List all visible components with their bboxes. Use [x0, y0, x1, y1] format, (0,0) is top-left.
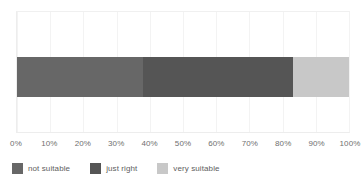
- legend-item[interactable]: very suitable: [157, 163, 219, 174]
- plot-area: [16, 11, 350, 133]
- x-tick-label: 50%: [175, 139, 191, 149]
- legend-item[interactable]: just right: [90, 163, 137, 174]
- x-tick-label: 100%: [340, 139, 361, 149]
- legend-item-label: not suitable: [28, 163, 70, 174]
- legend-swatch-icon: [90, 163, 101, 174]
- chart-legend: not suitablejust rightvery suitable: [12, 163, 240, 174]
- x-tick-label: 90%: [308, 139, 324, 149]
- legend-item[interactable]: not suitable: [12, 163, 70, 174]
- x-tick-label: 20%: [75, 139, 91, 149]
- x-tick-label: 80%: [275, 139, 291, 149]
- legend-item-label: very suitable: [173, 163, 219, 174]
- legend-swatch-icon: [157, 163, 168, 174]
- x-tick-label: 30%: [108, 139, 124, 149]
- bar-segment-not-suitable[interactable]: [17, 57, 143, 97]
- bar-segment-very-suitable[interactable]: [293, 57, 349, 97]
- x-tick-label: 10%: [41, 139, 57, 149]
- bar-segment-just-right[interactable]: [143, 57, 292, 97]
- x-tick-label: 40%: [141, 139, 157, 149]
- x-tick-label: 70%: [242, 139, 258, 149]
- legend-item-label: just right: [106, 163, 137, 174]
- stacked-bar-chart: 0%10%20%30%40%50%60%70%80%90%100% not su…: [0, 0, 363, 189]
- legend-swatch-icon: [12, 163, 23, 174]
- x-tick-label: 0%: [10, 139, 22, 149]
- x-tick-label: 60%: [208, 139, 224, 149]
- x-axis-tick-labels: 0%10%20%30%40%50%60%70%80%90%100%: [16, 139, 350, 151]
- stacked-bar: [17, 57, 349, 97]
- gridline: [349, 12, 350, 132]
